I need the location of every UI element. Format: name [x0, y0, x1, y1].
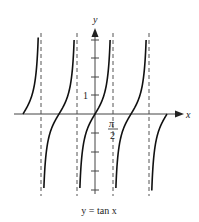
x-tick-label-pi-denominator: 2	[110, 130, 115, 141]
x-axis	[14, 111, 184, 118]
x-tick-label-pi-numerator: π	[109, 118, 115, 129]
y-axis	[91, 28, 99, 194]
x-axis-arrow-icon	[175, 111, 184, 118]
tan-graph: y x 1 π 2 y = tan x	[0, 0, 199, 222]
x-axis-label: x	[185, 109, 191, 120]
tan-branch-4	[152, 114, 167, 190]
figure-caption: y = tan x	[81, 205, 116, 216]
y-axis-label: y	[92, 14, 98, 25]
y-tick-label-1: 1	[83, 90, 88, 101]
y-axis-arrow-icon	[92, 28, 99, 37]
tan-branch-0	[23, 38, 38, 114]
